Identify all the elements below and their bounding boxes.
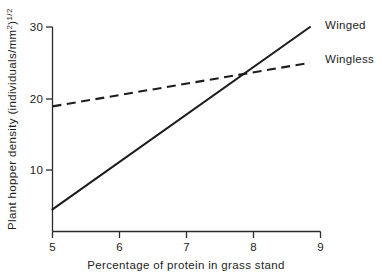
series-line-wingless — [53, 63, 311, 107]
x-axis-title: Percentage of protein in grass stand — [87, 259, 284, 271]
y-tick-label-20: 20 — [30, 93, 43, 105]
y-axis-title-main: Plant hopper density (individuals/mm — [6, 29, 18, 230]
chart-plot-area: 30 20 10 5 6 7 8 9 Winged Wingless Perce… — [0, 0, 382, 274]
x-tick-label-7: 7 — [183, 241, 190, 253]
x-tick-label-8: 8 — [250, 241, 257, 253]
y-axis-ticks — [46, 27, 53, 170]
legend-label-wingless: Wingless — [325, 53, 374, 65]
x-tick-label-5: 5 — [49, 241, 56, 253]
x-tick-label-9: 9 — [317, 241, 324, 253]
chart-figure: 30 20 10 5 6 7 8 9 Winged Wingless Perce… — [0, 0, 382, 274]
y-tick-label-30: 30 — [30, 21, 43, 33]
x-axis-ticks — [53, 232, 321, 239]
x-tick-label-6: 6 — [116, 241, 123, 253]
y-axis-title-power: 1/2 — [5, 8, 14, 20]
series-line-winged — [53, 27, 311, 209]
legend-label-winged: Winged — [325, 19, 366, 31]
y-axis-title: Plant hopper density (individuals/mm2)1/… — [5, 8, 19, 230]
y-tick-label-10: 10 — [30, 164, 43, 176]
